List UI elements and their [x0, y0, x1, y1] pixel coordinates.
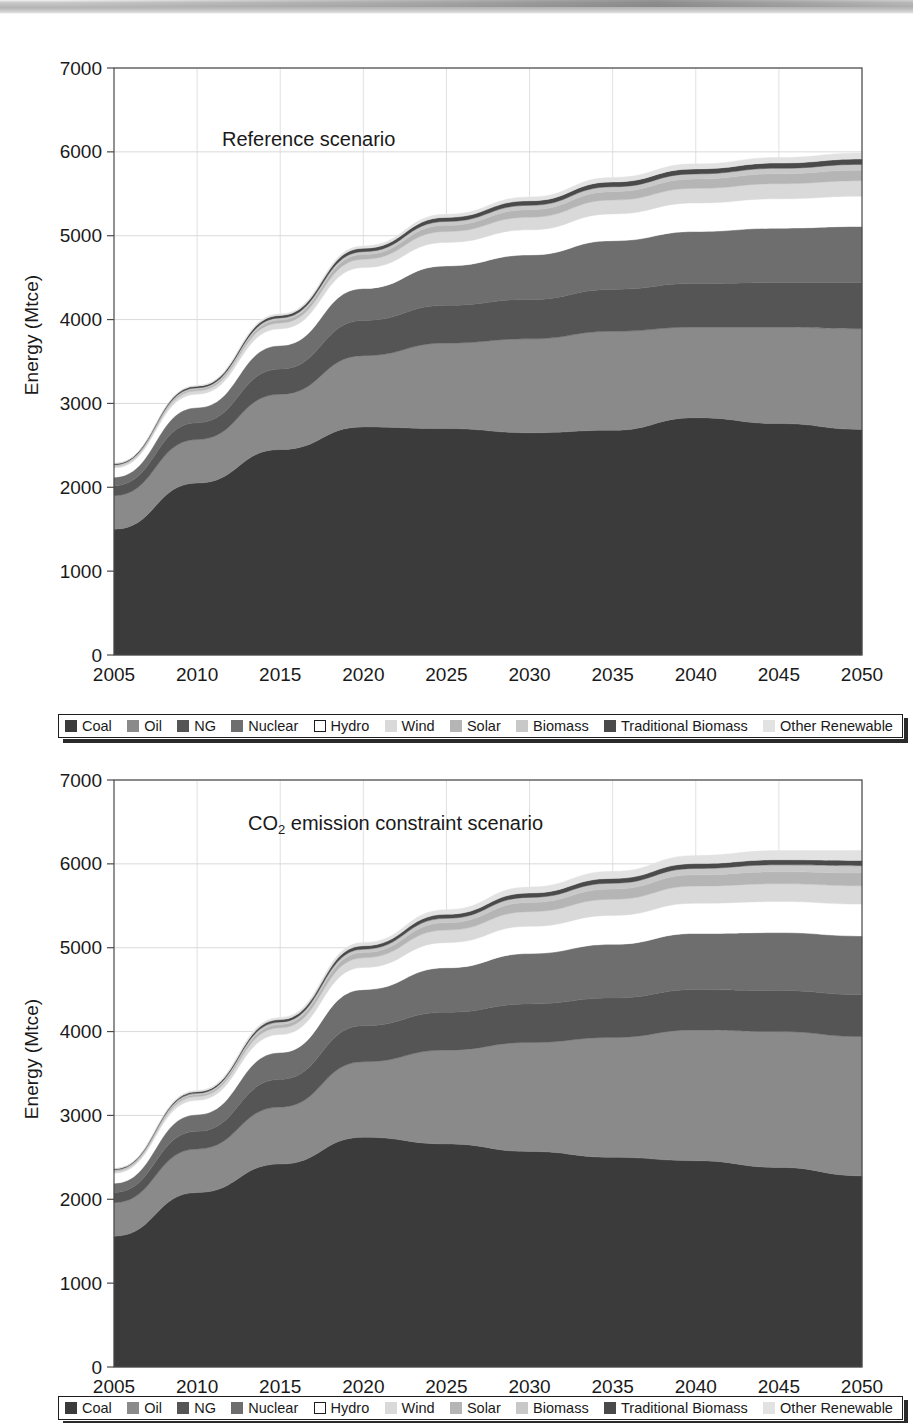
area-chart-co2: 0100020003000400050006000700020052010201…: [0, 760, 913, 1396]
legend-item-oil: Oil: [127, 1401, 162, 1415]
legend-label: NG: [194, 1401, 216, 1415]
chart-panel-reference: 0100020003000400050006000700020052010201…: [0, 24, 913, 736]
x-tick-label: 2025: [425, 1376, 467, 1396]
y-tick-label: 6000: [60, 853, 102, 874]
x-tick-label: 2020: [342, 664, 384, 685]
legend-label: Other Renewable: [780, 719, 893, 733]
legend-label: Biomass: [533, 1401, 589, 1415]
legend-item-coal: Coal: [65, 1401, 112, 1415]
legend-item-hydro: Hydro: [314, 1401, 370, 1415]
legend-swatch-icon: [65, 1402, 77, 1414]
legend-item-coal: Coal: [65, 719, 112, 733]
y-tick-label: 2000: [60, 1189, 102, 1210]
legend-item-other-renewable: Other Renewable: [763, 719, 893, 733]
legend-item-ng: NG: [177, 1401, 216, 1415]
y-tick-label: 7000: [60, 58, 102, 79]
legend-label: Traditional Biomass: [621, 1401, 748, 1415]
legend-item-ng: NG: [177, 719, 216, 733]
legend-swatch-icon: [516, 1402, 528, 1414]
legend-swatch-icon: [450, 720, 462, 732]
legend-swatch-icon: [516, 720, 528, 732]
legend-swatch-icon: [385, 1402, 397, 1414]
area-chart-reference: 0100020003000400050006000700020052010201…: [0, 24, 913, 714]
chart-panel-co2: 0100020003000400050006000700020052010201…: [0, 760, 913, 1420]
legend-item-biomass: Biomass: [516, 1401, 589, 1415]
y-tick-label: 5000: [60, 937, 102, 958]
plot-area-co2: 0100020003000400050006000700020052010201…: [0, 760, 913, 1396]
x-tick-label: 2045: [758, 664, 800, 685]
x-tick-label: 2040: [675, 1376, 717, 1396]
legend-label: Oil: [144, 719, 162, 733]
legend-label: Coal: [82, 1401, 112, 1415]
legend-item-wind: Wind: [385, 1401, 435, 1415]
legend-swatch-icon: [127, 720, 139, 732]
x-tick-label: 2030: [508, 1376, 550, 1396]
legend-item-oil: Oil: [127, 719, 162, 733]
y-tick-label: 3000: [60, 393, 102, 414]
y-tick-label: 6000: [60, 141, 102, 162]
legend-label: Hydro: [331, 719, 370, 733]
legend-label: Other Renewable: [780, 1401, 893, 1415]
chart-title-reference: Reference scenario: [222, 128, 395, 151]
legend-swatch-icon: [231, 720, 243, 732]
legend-item-solar: Solar: [450, 719, 501, 733]
y-tick-label: 7000: [60, 770, 102, 791]
chart-legend-reference: CoalOilNGNuclearHydroWindSolarBiomassTra…: [58, 714, 903, 738]
x-tick-label: 2015: [259, 664, 301, 685]
y-tick-label: 1000: [60, 561, 102, 582]
chart-legend-co2: CoalOilNGNuclearHydroWindSolarBiomassTra…: [58, 1396, 903, 1420]
legend-label: Hydro: [331, 1401, 370, 1415]
legend-swatch-icon: [450, 1402, 462, 1414]
y-tick-label: 3000: [60, 1105, 102, 1126]
legend-swatch-icon: [127, 1402, 139, 1414]
legend-swatch-icon: [65, 720, 77, 732]
legend-swatch-icon: [177, 1402, 189, 1414]
legend-item-traditional-biomass: Traditional Biomass: [604, 1401, 748, 1415]
legend-item-solar: Solar: [450, 1401, 501, 1415]
legend-item-hydro: Hydro: [314, 719, 370, 733]
legend-item-wind: Wind: [385, 719, 435, 733]
legend-item-traditional-biomass: Traditional Biomass: [604, 719, 748, 733]
y-tick-label: 0: [91, 645, 102, 666]
legend-swatch-icon: [314, 1402, 326, 1414]
x-tick-label: 2025: [425, 664, 467, 685]
x-tick-label: 2045: [758, 1376, 800, 1396]
x-tick-label: 2005: [93, 664, 135, 685]
legend-label: Solar: [467, 1401, 501, 1415]
x-tick-label: 2015: [259, 1376, 301, 1396]
legend-item-nuclear: Nuclear: [231, 1401, 298, 1415]
x-tick-label: 2010: [176, 1376, 218, 1396]
y-tick-label: 5000: [60, 225, 102, 246]
legend-swatch-icon: [763, 720, 775, 732]
x-tick-label: 2020: [342, 1376, 384, 1396]
y-tick-label: 4000: [60, 309, 102, 330]
legend-swatch-icon: [763, 1402, 775, 1414]
x-tick-label: 2010: [176, 664, 218, 685]
plot-area-reference: 0100020003000400050006000700020052010201…: [0, 24, 913, 714]
scan-artifact-band: [0, 0, 913, 14]
y-tick-label: 1000: [60, 1273, 102, 1294]
legend-swatch-icon: [177, 720, 189, 732]
legend-swatch-icon: [231, 1402, 243, 1414]
legend-item-nuclear: Nuclear: [231, 719, 298, 733]
x-tick-label: 2035: [592, 1376, 634, 1396]
x-tick-label: 2050: [841, 1376, 883, 1396]
x-tick-label: 2040: [675, 664, 717, 685]
legend-label: Oil: [144, 1401, 162, 1415]
y-axis-label: Energy (Mtce): [21, 939, 43, 1179]
legend-label: Nuclear: [248, 719, 298, 733]
legend-label: Nuclear: [248, 1401, 298, 1415]
legend-label: Coal: [82, 719, 112, 733]
y-tick-label: 2000: [60, 477, 102, 498]
legend-swatch-icon: [385, 720, 397, 732]
x-tick-label: 2030: [508, 664, 550, 685]
legend-label: Solar: [467, 719, 501, 733]
x-tick-label: 2050: [841, 664, 883, 685]
x-tick-label: 2035: [592, 664, 634, 685]
legend-label: Wind: [402, 1401, 435, 1415]
y-tick-label: 4000: [60, 1021, 102, 1042]
legend-item-other-renewable: Other Renewable: [763, 1401, 893, 1415]
y-axis-label: Energy (Mtce): [21, 215, 43, 455]
chart-title-co2: CO2 emission constraint scenario: [248, 812, 543, 837]
legend-label: Traditional Biomass: [621, 719, 748, 733]
